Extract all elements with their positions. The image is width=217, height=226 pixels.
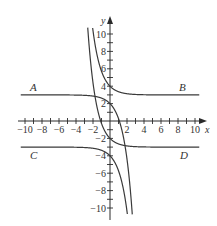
curve-a xyxy=(21,95,133,214)
curve-label-b: B xyxy=(179,81,186,93)
x-tick-label: 4 xyxy=(142,124,147,135)
curve-label-d: D xyxy=(179,149,188,161)
x-axis-label: x xyxy=(204,124,210,135)
y-axis-label: y xyxy=(100,15,106,26)
y-tick-label: 8 xyxy=(101,46,106,57)
y-tick-label: −2 xyxy=(95,133,106,144)
x-tick-label: −6 xyxy=(54,124,65,135)
y-tick-label: 4 xyxy=(101,81,106,92)
x-tick-label: −4 xyxy=(71,124,82,135)
x-tick-label: 10 xyxy=(190,124,200,135)
axes: x y xyxy=(18,15,210,220)
x-tick-label: 6 xyxy=(159,124,164,135)
y-tick-label: −10 xyxy=(90,203,106,214)
x-tick-label: −8 xyxy=(37,124,48,135)
graph-canvas: x y −10−8−6−4−2246810−10−8−6−4−2246810 A… xyxy=(0,0,217,226)
y-tick-label: −8 xyxy=(95,185,106,196)
curve-label-a: A xyxy=(29,81,37,93)
y-tick-label: 10 xyxy=(96,29,106,40)
y-tick-label: −6 xyxy=(95,168,106,179)
x-tick-label: 8 xyxy=(176,124,181,135)
curve-label-c: C xyxy=(30,149,38,161)
x-tick-label: 2 xyxy=(125,124,130,135)
y-axis-arrow-icon xyxy=(107,16,113,24)
x-tick-label: −10 xyxy=(17,124,33,135)
